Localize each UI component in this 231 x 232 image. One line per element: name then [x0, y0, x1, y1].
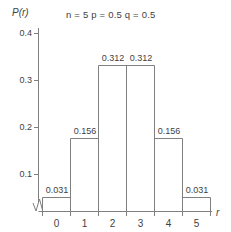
bar-r4	[155, 139, 183, 212]
x-tick-label-3: 3	[126, 219, 155, 229]
bar-r2	[99, 66, 127, 212]
chart-canvas	[0, 0, 231, 232]
bar-value-label-r0: 0.031	[34, 186, 80, 195]
bar-value-label-r1: 0.156	[62, 127, 108, 136]
y-tick-label-0.3: 0.3	[8, 76, 32, 85]
bar-value-label-r3: 0.312	[118, 54, 164, 63]
bar-r0	[43, 198, 71, 212]
bar-r3	[127, 66, 155, 212]
x-tick-label-4: 4	[154, 219, 183, 229]
x-tick-label-1: 1	[70, 219, 99, 229]
bar-value-label-r5: 0.031	[174, 186, 220, 195]
y-tick-label-0.4: 0.4	[8, 29, 32, 38]
y-axis-title: P(r)	[12, 8, 29, 18]
y-tick-label-0.1: 0.1	[8, 170, 32, 179]
x-axis-title: r	[216, 208, 219, 218]
x-tick-label-5: 5	[182, 219, 211, 229]
x-tick-label-2: 2	[98, 219, 127, 229]
binomial-distribution-chart: P(r) n = 5 p = 0.5 q = 0.5 r 0.4 0.3 0.2…	[0, 0, 231, 232]
bar-r5	[183, 198, 211, 212]
y-tick-label-0.2: 0.2	[8, 123, 32, 132]
chart-parameters-annotation: n = 5 p = 0.5 q = 0.5	[66, 10, 156, 20]
bar-r1	[71, 139, 99, 212]
x-tick-label-0: 0	[42, 219, 71, 229]
bar-value-label-r4: 0.156	[146, 127, 192, 136]
